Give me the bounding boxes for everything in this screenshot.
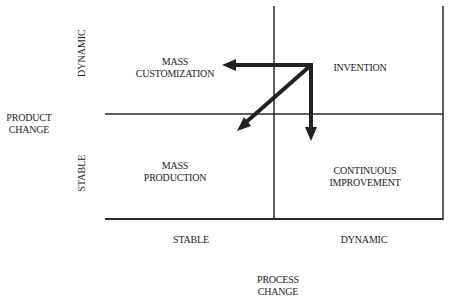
x-tick-dynamic: DYNAMIC	[334, 234, 394, 246]
quadrant-label-line: MASS	[140, 160, 210, 172]
quadrant-label-line: PRODUCTION	[140, 172, 210, 184]
arrow-to-continuous-improvement	[305, 63, 317, 141]
arrow-to-mass-customization	[222, 59, 313, 71]
x-axis-title-line1: PROCESS	[248, 274, 308, 286]
quadrant-continuous-improvement: CONTINUOUS IMPROVEMENT	[320, 165, 410, 189]
y-axis-title: PRODUCT CHANGE	[4, 112, 54, 136]
x-tick-stable: STABLE	[166, 234, 216, 246]
y-tick-stable: STABLE	[76, 153, 88, 193]
quadrant-label-line: CUSTOMIZATION	[130, 68, 220, 80]
y-axis-title-line2: CHANGE	[4, 124, 54, 136]
quadrant-invention: INVENTION	[330, 62, 390, 74]
quadrant-label-line: IMPROVEMENT	[320, 177, 410, 189]
y-axis-title-line1: PRODUCT	[4, 112, 54, 124]
quadrant-mass-customization: MASS CUSTOMIZATION	[130, 56, 220, 80]
quadrant-mass-production: MASS PRODUCTION	[140, 160, 210, 184]
x-axis-title-line2: CHANGE	[248, 286, 308, 298]
matrix-diagram	[0, 0, 449, 305]
quadrant-label-line: INVENTION	[330, 62, 390, 74]
x-axis-title: PROCESS CHANGE	[248, 274, 308, 298]
quadrant-label-line: CONTINUOUS	[320, 165, 410, 177]
quadrant-label-line: MASS	[130, 56, 220, 68]
y-tick-dynamic: DYNAMIC	[76, 37, 88, 77]
